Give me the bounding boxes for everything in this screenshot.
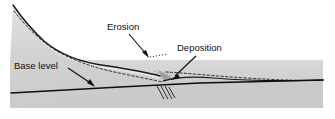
terrain-body	[10, 5, 323, 108]
erosion-tick-dots	[150, 54, 168, 57]
erosion-deposition-figure: Erosion Deposition Base level	[0, 0, 335, 119]
upland-slope-mass	[10, 5, 323, 108]
cross-section-diagram: Erosion Deposition Base level	[0, 0, 335, 119]
base-level-label: Base level	[14, 60, 58, 71]
erosion-label: Erosion	[107, 21, 139, 32]
deposition-label: Deposition	[177, 42, 222, 53]
annotation-erosion: Erosion	[107, 21, 149, 58]
